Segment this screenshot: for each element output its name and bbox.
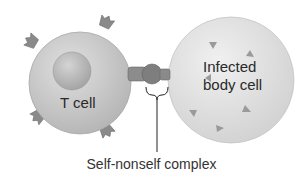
complex-caption: Self-nonself complex <box>0 157 303 171</box>
diagram-stage: T cell Infected body cell Self-nonself c… <box>0 0 303 186</box>
infected-cell-label-line1: Infected <box>203 58 283 76</box>
self-nonself-complex-icon <box>128 64 170 84</box>
bracket-icon <box>146 87 168 100</box>
receptor-icon <box>22 32 39 50</box>
receptor-icon <box>98 13 116 30</box>
t-cell-nucleus <box>53 52 91 90</box>
t-cell-label: T cell <box>60 95 96 110</box>
infected-cell-label: Infected body cell <box>203 58 283 94</box>
infected-cell-label-line2: body cell <box>203 76 283 94</box>
